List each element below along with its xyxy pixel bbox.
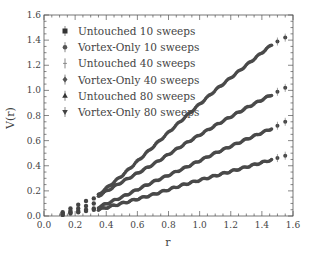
x-tick-label: 0.8 (161, 220, 176, 230)
y-tick-label: 0.8 (27, 111, 42, 121)
x-tick-label: 0.0 (37, 220, 52, 230)
legend-entry: Untouched 10 sweeps (78, 25, 195, 37)
legend-entry: Untouched 40 sweeps (78, 57, 195, 69)
x-tick-label: 1.0 (192, 220, 207, 230)
y-axis-label: V(r) (4, 107, 17, 130)
x-tick-label: 0.4 (99, 220, 114, 230)
y-tick-labels: 0.00.20.40.60.81.01.21.41.6 (27, 10, 42, 221)
y-tick-label: 1.4 (27, 35, 42, 45)
x-tick-label: 0.6 (130, 220, 145, 230)
legend-entry: Vortex-Only 80 sweeps (77, 106, 199, 118)
y-tick-label: 1.2 (27, 60, 41, 70)
y-tick-label: 1.0 (27, 85, 42, 95)
scatter-chart: 0.00.20.40.60.81.01.21.41.6 0.00.20.40.6… (0, 0, 314, 256)
x-tick-label: 1.6 (286, 220, 301, 230)
y-tick-label: 1.6 (27, 10, 42, 20)
y-tick-label: 0.2 (27, 186, 41, 196)
x-tick-label: 0.2 (68, 220, 82, 230)
x-tick-labels: 0.00.20.40.60.81.01.21.41.6 (37, 220, 301, 230)
legend-entry: Vortex-Only 10 sweeps (77, 41, 199, 53)
legend-entry: Untouched 80 sweeps (78, 90, 195, 102)
y-tick-label: 0.0 (27, 211, 42, 221)
legend-entry: Vortex-Only 40 sweeps (77, 74, 199, 86)
x-tick-label: 1.2 (224, 220, 238, 230)
y-tick-label: 0.6 (27, 136, 42, 146)
x-axis-label: r (165, 236, 171, 249)
legend: Untouched 10 sweepsVortex-Only 10 sweeps… (62, 25, 199, 118)
y-tick-label: 0.4 (27, 161, 42, 171)
x-tick-label: 1.4 (255, 220, 270, 230)
